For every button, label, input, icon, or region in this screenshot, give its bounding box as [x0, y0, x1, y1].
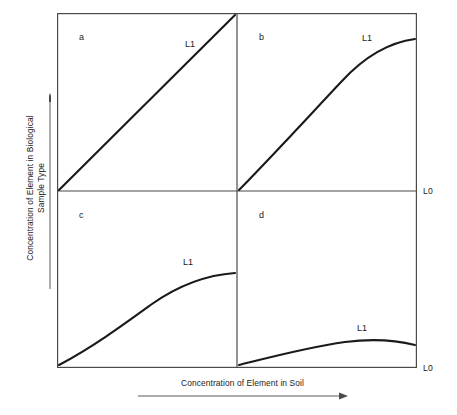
panel-d-curve-label: L1 — [357, 323, 367, 333]
panel-a-curve-label: L1 — [185, 39, 195, 49]
panel-c-curve-label: L1 — [183, 257, 193, 267]
right-arrow-icon — [138, 391, 348, 401]
panel-d-letter: d — [259, 210, 264, 220]
panel-a-curve — [59, 15, 235, 190]
panel-b-curve-label: L1 — [362, 33, 372, 43]
panel-c: c L1 — [59, 210, 235, 365]
l0-marker-middle: L0 — [423, 186, 433, 196]
plot-svg: a L1 b L1 c L1 d L1 — [57, 13, 417, 368]
panel-b: b L1 — [239, 32, 415, 190]
panel-d-curve — [239, 340, 415, 365]
up-arrow-icon — [49, 93, 51, 289]
panel-a-letter: a — [79, 32, 84, 42]
y-axis-label-block: Concentration of Element in Biological S… — [8, 85, 60, 300]
x-axis-label-block: Concentration of Element in Soil — [120, 378, 365, 410]
panel-a: a L1 — [59, 15, 235, 190]
l0-marker-bottom: L0 — [423, 363, 433, 373]
panel-d: d L1 — [239, 210, 415, 365]
x-axis-label: Concentration of Element in Soil — [120, 378, 365, 388]
panel-b-letter: b — [259, 32, 264, 42]
figure-root: Concentration of Element in Biological S… — [0, 0, 457, 415]
panel-c-curve — [59, 273, 235, 365]
y-axis-label: Concentration of Element in Biological S… — [25, 88, 47, 288]
plot-grid: a L1 b L1 c L1 d L1 — [57, 13, 417, 368]
panel-c-letter: c — [79, 210, 84, 220]
panel-b-curve — [239, 39, 415, 190]
